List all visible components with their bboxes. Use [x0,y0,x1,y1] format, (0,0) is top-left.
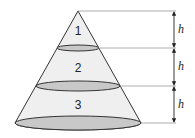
height-label-1: h [178,22,184,36]
section-label-1: 1 [75,24,82,38]
section-label-2: 2 [75,61,82,75]
height-label-2: h [178,59,184,73]
section-label-3: 3 [75,98,82,112]
section-ellipse-1 [57,45,99,51]
section-ellipse-2 [36,81,120,91]
height-label-3: h [178,97,184,111]
cone-diagram: 1 2 3 h h h [0,0,195,138]
base-ellipse [15,116,141,130]
